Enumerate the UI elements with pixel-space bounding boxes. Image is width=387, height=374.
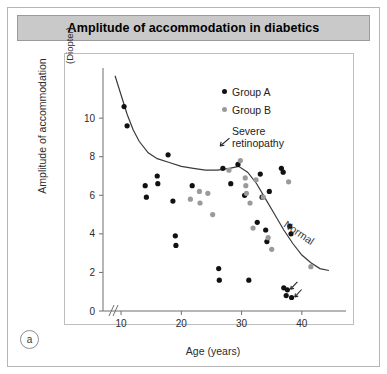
x-tick-label: 40: [296, 318, 308, 329]
data-point: [258, 171, 263, 176]
y-tick-label: 6: [89, 190, 95, 201]
data-point: [188, 197, 193, 202]
data-point: [263, 227, 268, 232]
data-point: [243, 175, 248, 180]
data-point: [125, 123, 130, 128]
data-point: [144, 195, 149, 200]
data-point: [261, 195, 266, 200]
data-point: [238, 158, 243, 163]
data-points-layer: [121, 104, 313, 300]
data-point: [197, 189, 202, 194]
data-point: [173, 243, 178, 248]
data-point: [155, 181, 160, 186]
data-point: [246, 278, 251, 283]
data-point: [228, 181, 233, 186]
data-point: [281, 170, 286, 175]
data-point: [289, 295, 294, 300]
data-point: [286, 179, 291, 184]
data-point: [197, 200, 202, 205]
severe-retinopathy-arrow: [291, 282, 298, 289]
data-point: [220, 166, 225, 171]
data-point: [205, 191, 210, 196]
data-point: [244, 191, 249, 196]
data-point: [190, 183, 195, 188]
data-point: [173, 233, 178, 238]
data-point: [170, 198, 175, 203]
data-point: [247, 200, 252, 205]
x-tick-label: 10: [116, 318, 128, 329]
data-point: [267, 189, 272, 194]
normal-curve: [115, 76, 329, 271]
figure-frame: Amplitude of accommodation in diabetics …: [7, 7, 380, 367]
data-point: [255, 220, 260, 225]
y-tick-label: 2: [89, 267, 95, 278]
data-point: [216, 266, 221, 271]
data-point: [143, 183, 148, 188]
chart-canvas: 024681010203040 Normal: [8, 8, 381, 368]
y-tick-label: 4: [89, 228, 95, 239]
y-tick-label: 0: [89, 306, 95, 317]
y-tick-label: 10: [84, 113, 96, 124]
data-point: [253, 177, 258, 182]
data-point: [226, 168, 231, 173]
data-point: [165, 152, 170, 157]
data-point: [210, 212, 215, 217]
x-tick-label: 30: [236, 318, 248, 329]
data-point: [266, 235, 271, 240]
data-point: [217, 278, 222, 283]
data-point: [284, 293, 289, 298]
figure-panel: Amplitude of accommodation in diabetics …: [0, 0, 387, 374]
data-point: [155, 173, 160, 178]
data-point: [285, 287, 290, 292]
x-tick-label: 20: [176, 318, 188, 329]
normal-curve-label: Normal: [282, 218, 317, 247]
data-point: [250, 225, 255, 230]
normal-curve-layer: [115, 76, 329, 271]
severe-retinopathy-arrow: [295, 290, 302, 297]
data-point: [243, 183, 248, 188]
data-point: [121, 104, 126, 109]
data-point: [269, 247, 274, 252]
data-point: [308, 264, 313, 269]
y-tick-label: 8: [89, 151, 95, 162]
